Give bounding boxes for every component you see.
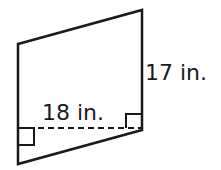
base-label: 18 in. (42, 102, 104, 124)
parallelogram-outline (18, 10, 142, 164)
right-angle-marker-left (18, 128, 34, 145)
right-angle-marker-right (126, 114, 142, 128)
height-label: 17 in. (145, 62, 207, 84)
parallelogram-diagram (0, 0, 221, 170)
